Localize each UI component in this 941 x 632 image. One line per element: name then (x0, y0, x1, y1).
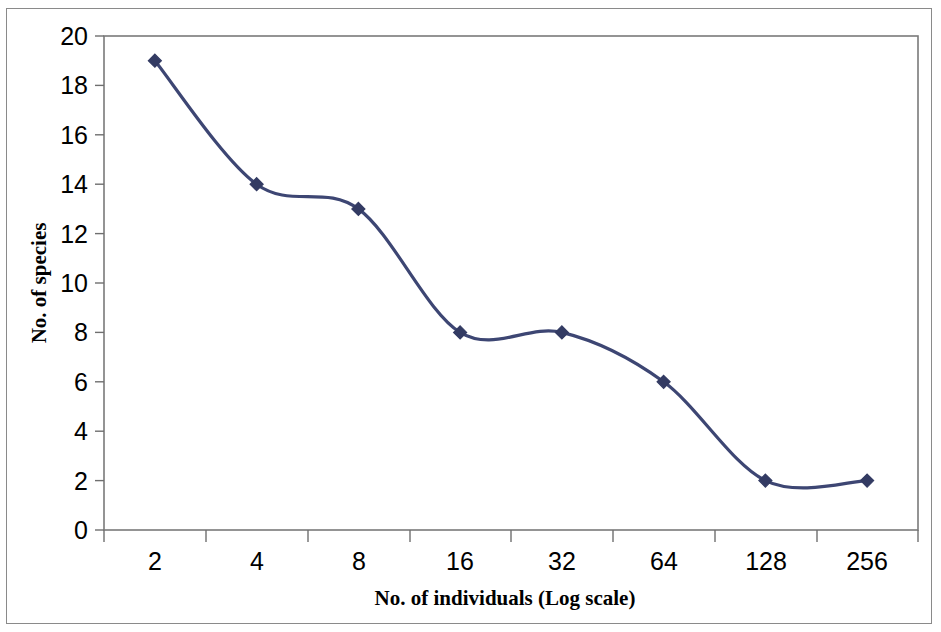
y-tick-label: 8 (74, 318, 88, 346)
y-tick-label: 14 (60, 170, 88, 198)
plot-area-box (104, 36, 918, 530)
x-tick-label: 256 (846, 547, 888, 575)
x-tick-label: 8 (352, 547, 366, 575)
y-tick-label: 4 (74, 417, 88, 445)
y-tick-label: 0 (74, 516, 88, 544)
figure-page: 20 18 16 14 12 10 8 6 4 2 0 (0, 0, 941, 632)
plot-frame (104, 36, 918, 530)
x-axis-ticks (104, 530, 918, 542)
y-tick-label: 6 (74, 368, 88, 396)
x-tick-label: 32 (548, 547, 576, 575)
y-tick-label: 20 (60, 22, 88, 50)
y-tick-label: 18 (60, 71, 88, 99)
x-tick-label: 2 (148, 547, 162, 575)
y-tick-label: 10 (60, 269, 88, 297)
y-tick-label: 16 (60, 121, 88, 149)
y-axis-tick-labels: 20 18 16 14 12 10 8 6 4 2 0 (60, 22, 88, 544)
x-tick-label: 16 (446, 547, 474, 575)
x-tick-label: 4 (250, 547, 264, 575)
x-axis-tick-labels: 2 4 8 16 32 64 128 256 (148, 547, 888, 575)
y-tick-label: 12 (60, 220, 88, 248)
x-tick-label: 128 (745, 547, 787, 575)
x-tick-label: 64 (650, 547, 678, 575)
y-tick-label: 2 (74, 467, 88, 495)
line-chart: 20 18 16 14 12 10 8 6 4 2 0 (0, 0, 941, 632)
y-axis-title: No. of species (27, 223, 51, 344)
x-axis-title: No. of individuals (Log scale) (375, 586, 636, 610)
y-axis-ticks (95, 36, 104, 530)
chart-canvas: 20 18 16 14 12 10 8 6 4 2 0 (0, 0, 941, 632)
